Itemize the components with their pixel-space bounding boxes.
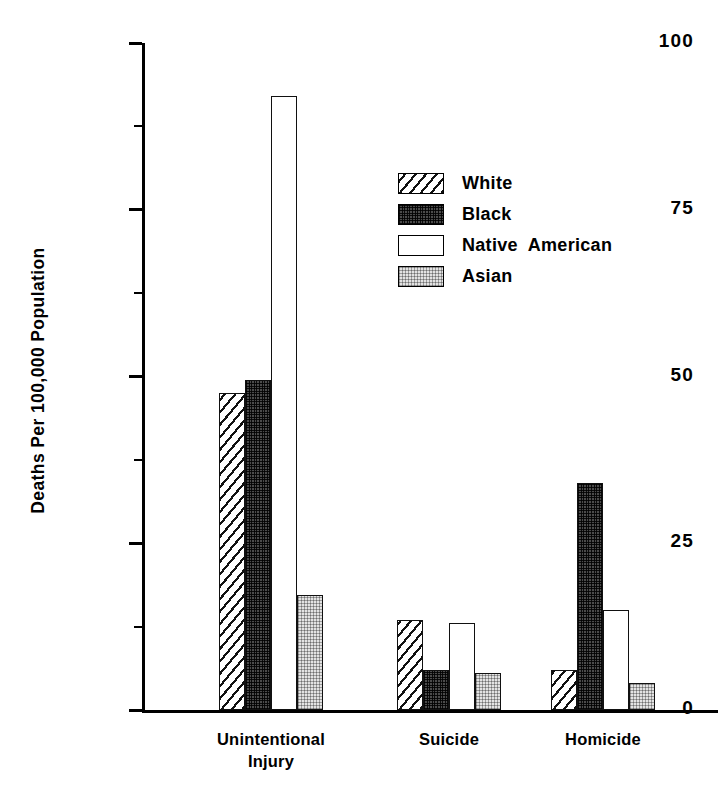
- legend-label: Native American: [462, 235, 612, 256]
- bar: [397, 620, 423, 710]
- legend-label: Black: [462, 204, 512, 225]
- bar: [219, 393, 245, 710]
- legend-label: Asian: [462, 266, 513, 287]
- legend-swatch: [398, 173, 444, 194]
- bar: [475, 673, 501, 710]
- bar: [629, 683, 655, 710]
- legend: WhiteBlackNative AmericanAsian: [398, 168, 698, 292]
- y-axis-tick-label: 50: [2, 364, 694, 386]
- bar: [297, 595, 323, 710]
- bar: [449, 623, 475, 710]
- y-axis-tick-minor: [134, 459, 142, 461]
- bar: [603, 610, 629, 710]
- plot-area: 0255075100Unintentional InjurySuicideHom…: [142, 43, 718, 710]
- x-axis-category-label: Homicide: [503, 728, 703, 750]
- legend-item: Asian: [398, 261, 698, 291]
- y-axis-tick-minor: [134, 125, 142, 127]
- bar: [271, 96, 297, 710]
- y-axis-tick-minor: [134, 292, 142, 294]
- bar: [551, 670, 577, 710]
- legend-swatch: [398, 266, 444, 287]
- bar-chart-figure: Deaths Per 100,000 Population 0255075100…: [0, 0, 728, 799]
- legend-label: White: [462, 173, 513, 194]
- legend-item: Black: [398, 199, 698, 229]
- legend-swatch: [398, 204, 444, 225]
- y-axis-tick-label: 100: [2, 30, 694, 52]
- bar: [577, 483, 603, 710]
- legend-item: Native American: [398, 230, 698, 260]
- bar: [245, 380, 271, 710]
- bar: [423, 670, 449, 710]
- x-axis-category-label: Unintentional Injury: [171, 728, 371, 773]
- y-axis-tick-minor: [134, 626, 142, 628]
- legend-swatch: [398, 235, 444, 256]
- legend-item: White: [398, 168, 698, 198]
